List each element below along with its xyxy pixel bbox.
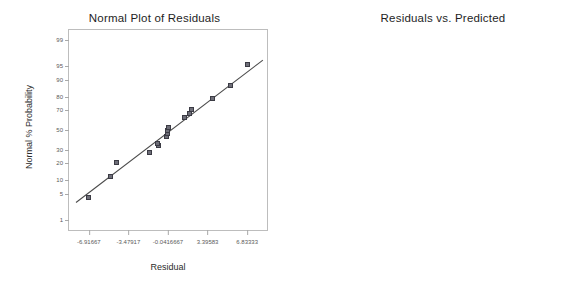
y-tick-label: 30 [56, 147, 69, 153]
diagnostics-figure: Normal Plot of Residuals -6.91667-3.4791… [0, 0, 573, 286]
y-tick-label: 1 [60, 217, 69, 223]
data-point[interactable] [155, 141, 160, 146]
y-tick-label: 5 [60, 191, 69, 197]
normal-plot-panel: Normal Plot of Residuals -6.91667-3.4791… [0, 0, 287, 286]
normal-plot-y-axis-title: Normal % Probability [24, 67, 34, 187]
data-point[interactable] [228, 83, 233, 88]
data-point[interactable] [182, 115, 187, 120]
x-tick-label: -3.47917 [117, 230, 141, 245]
data-point[interactable] [166, 125, 171, 130]
data-point[interactable] [114, 160, 119, 165]
x-tick-label: -6.91667 [77, 230, 101, 245]
y-tick-label: 50 [56, 127, 69, 133]
y-tick-label: 80 [56, 94, 69, 100]
residuals-vs-predicted-title: Residuals vs. Predicted [287, 12, 573, 24]
x-tick-label: 6.83333 [236, 230, 258, 245]
normal-plot-frame: -6.91667-3.47917-0.04166673.395836.83333… [68, 29, 268, 231]
normal-plot-title: Normal Plot of Residuals [0, 12, 287, 24]
y-tick-label: 90 [56, 77, 69, 83]
x-tick-label: 3.39583 [197, 230, 219, 245]
data-point[interactable] [86, 195, 91, 200]
data-point[interactable] [189, 107, 194, 112]
x-tick-label: -0.0416667 [153, 230, 183, 245]
data-point[interactable] [245, 62, 250, 67]
data-point[interactable] [187, 111, 192, 116]
y-tick-label: 70 [56, 107, 69, 113]
data-point[interactable] [210, 96, 215, 101]
data-point[interactable] [147, 150, 152, 155]
data-point[interactable] [108, 174, 113, 179]
y-tick-label: 95 [56, 63, 69, 69]
y-tick-label: 99 [56, 37, 69, 43]
normal-plot-x-axis-title: Residual [68, 262, 268, 272]
y-tick-label: 10 [56, 177, 69, 183]
y-tick-label: 20 [56, 160, 69, 166]
residuals-vs-predicted-panel: Residuals vs. Predicted 22.1731.2340.294… [287, 0, 573, 286]
normal-plot-area: -6.91667-3.47917-0.04166673.395836.83333… [69, 30, 267, 230]
